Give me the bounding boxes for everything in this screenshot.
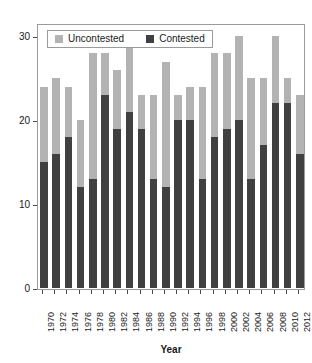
bar-segment-uncontested [101, 53, 109, 95]
x-axis-tick-mark [79, 290, 80, 294]
x-axis-tick-mark [152, 290, 153, 294]
x-axis-tick-mark [249, 290, 250, 294]
bar-segment-uncontested [284, 78, 292, 103]
x-axis-tick-mark [66, 290, 67, 294]
bar-column [40, 87, 48, 288]
bar-segment-contested [247, 179, 255, 288]
bar-segment-contested [77, 187, 85, 288]
y-axis-tick-label: 30 [19, 32, 33, 42]
x-axis-tick-label: 1990 [169, 312, 178, 332]
bar-segment-uncontested [296, 95, 304, 154]
bar-segment-contested [211, 137, 219, 288]
x-axis-tick-label: 2000 [230, 312, 239, 332]
bar-segment-contested [199, 179, 207, 288]
bar-segment-uncontested [211, 53, 219, 137]
x-axis-tick-mark [127, 290, 128, 294]
x-axis-tick-label: 2012 [303, 312, 312, 332]
x-axis-tick-label: 1980 [108, 312, 117, 332]
bar-segment-uncontested [113, 70, 121, 129]
bar-column [113, 70, 121, 288]
bar-segment-uncontested [272, 36, 280, 103]
bar-column [150, 95, 158, 288]
bar-column [126, 45, 134, 288]
bar-column [186, 87, 194, 288]
bar-segment-uncontested [260, 78, 268, 145]
bar-segment-contested [138, 129, 146, 288]
bar-column [247, 78, 255, 288]
legend-swatch-contested-icon [146, 35, 154, 43]
bar-column [296, 95, 304, 288]
x-axis-tick-label: 1974 [71, 312, 80, 332]
bar-segment-uncontested [247, 78, 255, 179]
x-axis-tick-mark [213, 290, 214, 294]
bar-column [138, 95, 146, 288]
x-axis-tick-label: 1972 [59, 312, 68, 332]
bar-segment-uncontested [52, 78, 60, 153]
x-axis-tick-mark [274, 290, 275, 294]
x-axis-tick-mark [115, 290, 116, 294]
bar-segment-contested [296, 154, 304, 288]
x-axis-tick-label: 1998 [218, 312, 227, 332]
bar-column [174, 95, 182, 288]
bar-column [223, 53, 231, 288]
x-axis-tick-label: 1992 [181, 312, 190, 332]
bar-segment-contested [40, 162, 48, 288]
x-axis-tick-mark [140, 290, 141, 294]
x-axis-tick-label: 2006 [266, 312, 275, 332]
bar-segment-contested [174, 120, 182, 288]
bar-series-group [38, 25, 304, 289]
x-axis-tick-mark [164, 290, 165, 294]
bar-column [101, 53, 109, 288]
stacked-bar-chart: 0102030 Uncontested Contested 1970197219… [0, 0, 312, 363]
bar-column [162, 62, 170, 288]
x-axis-tick-label: 1982 [120, 312, 129, 332]
bar-column [235, 36, 243, 288]
bar-segment-uncontested [40, 87, 48, 162]
bar-segment-contested [113, 129, 121, 288]
bar-segment-contested [89, 179, 97, 288]
x-axis-tick-label: 1984 [132, 312, 141, 332]
x-axis-tick-mark [103, 290, 104, 294]
bar-column [52, 78, 60, 288]
x-axis-tick-mark [237, 290, 238, 294]
bar-column [284, 78, 292, 288]
bar-segment-contested [272, 103, 280, 288]
bar-segment-contested [65, 137, 73, 288]
x-axis-title: Year [37, 344, 305, 355]
bar-segment-uncontested [65, 87, 73, 137]
x-axis-tick-label: 2002 [242, 312, 251, 332]
bar-column [260, 78, 268, 288]
legend-entry-uncontested: Uncontested [55, 34, 124, 44]
bar-column [211, 53, 219, 288]
y-axis: 0102030 [0, 24, 37, 290]
bar-segment-uncontested [126, 45, 134, 112]
x-axis-tick-mark [188, 290, 189, 294]
bar-segment-uncontested [138, 95, 146, 129]
bar-segment-contested [223, 129, 231, 288]
bar-segment-uncontested [174, 95, 182, 120]
bar-segment-contested [162, 187, 170, 288]
x-axis-tick-mark [91, 290, 92, 294]
bar-segment-uncontested [150, 95, 158, 179]
x-axis: 1970197219741976197819801982198419861988… [37, 290, 305, 342]
bar-segment-uncontested [186, 87, 194, 121]
x-axis-tick-label: 1994 [193, 312, 202, 332]
plot-area [37, 24, 305, 290]
x-axis-tick-label: 2004 [254, 312, 263, 332]
x-axis-tick-mark [225, 290, 226, 294]
bar-segment-contested [126, 112, 134, 288]
bar-segment-contested [284, 103, 292, 288]
bar-column [272, 36, 280, 288]
legend-label-uncontested: Uncontested [68, 34, 124, 44]
bar-column [77, 120, 85, 288]
bar-column [199, 87, 207, 288]
legend-entry-contested: Contested [146, 34, 205, 44]
bar-segment-uncontested [235, 36, 243, 120]
bar-segment-contested [101, 95, 109, 288]
x-axis-tick-mark [298, 290, 299, 294]
bar-segment-uncontested [199, 87, 207, 179]
bar-segment-contested [52, 154, 60, 288]
x-axis-tick-label: 1988 [157, 312, 166, 332]
bar-segment-uncontested [223, 53, 231, 128]
y-axis-tick-label: 20 [19, 116, 33, 126]
